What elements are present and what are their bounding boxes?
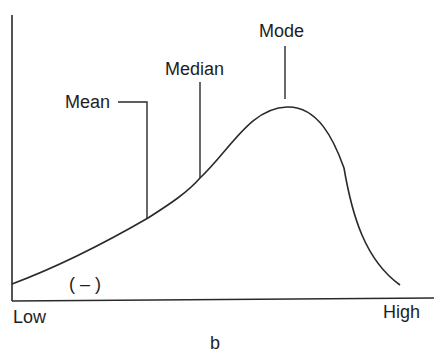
mean-leader-line xyxy=(118,102,147,218)
mode-label: Mode xyxy=(259,22,304,40)
distribution-plot xyxy=(0,0,434,352)
figure-caption: b xyxy=(210,334,220,352)
mean-label: Mean xyxy=(65,93,110,111)
skewed-distribution-figure: Mean Median Mode ( – ) Low High b xyxy=(0,0,434,352)
median-label: Median xyxy=(165,60,224,78)
x-axis-high-label: High xyxy=(383,303,420,321)
x-axis-low-label: Low xyxy=(13,308,46,326)
negative-skew-label: ( – ) xyxy=(69,275,101,293)
x-axis xyxy=(12,298,434,301)
distribution-curve xyxy=(12,107,400,285)
